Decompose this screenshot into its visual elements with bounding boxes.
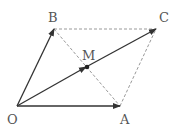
label-a: A [119,112,130,127]
label-o: O [7,112,18,127]
dashed-ac [120,29,156,106]
vector-om [17,67,86,106]
vector-ob [17,29,54,106]
point-m [85,65,90,70]
parallelogram-diagram: O A B C M [0,0,177,131]
label-m: M [82,48,95,63]
vector-mc [86,29,156,67]
label-b: B [48,10,58,25]
label-c: C [159,10,169,25]
